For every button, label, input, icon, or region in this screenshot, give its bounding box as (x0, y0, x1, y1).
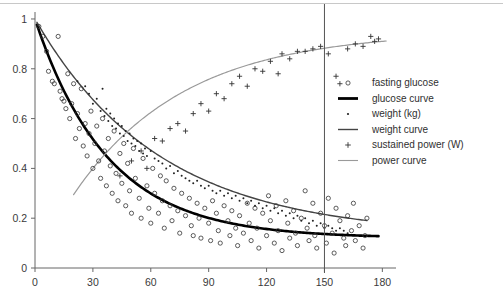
data-point (89, 109, 93, 113)
x-tick-label: 90 (203, 276, 215, 288)
data-point (147, 206, 151, 210)
data-point (73, 136, 77, 140)
data-point (127, 140, 129, 142)
data-point (113, 118, 115, 120)
data-point (109, 113, 111, 115)
data-point (228, 234, 232, 238)
data-point (312, 220, 314, 222)
data-point (207, 221, 211, 225)
data-point (199, 236, 203, 240)
data-point (222, 96, 227, 101)
data-point (320, 222, 322, 224)
data-point (158, 160, 160, 162)
data-point (145, 184, 149, 188)
legend-item: power curve (338, 155, 427, 166)
data-point (249, 239, 253, 243)
data-point (281, 210, 283, 212)
y-tick-label: 0 (21, 262, 27, 274)
data-point (212, 190, 214, 192)
data-point (120, 181, 124, 185)
data-point (335, 230, 337, 232)
data-point (180, 191, 184, 195)
data-point (346, 214, 350, 218)
data-point (252, 66, 257, 71)
curves-layer (37, 22, 386, 236)
data-point (285, 215, 287, 217)
data-point (100, 110, 102, 112)
data-point (357, 224, 361, 228)
data-point (253, 206, 257, 210)
data-point (181, 175, 183, 177)
x-tick-label: 30 (87, 276, 99, 288)
legend-label: fasting glucose (372, 77, 439, 88)
data-points-layer (37, 24, 381, 255)
data-point (334, 206, 338, 210)
data-point (106, 136, 110, 140)
data-point (258, 202, 260, 204)
data-point (223, 195, 225, 197)
data-point (84, 85, 86, 87)
data-point (141, 156, 145, 160)
series-sustained-power-w- (117, 34, 381, 179)
data-point (219, 190, 221, 192)
legend-item: glucose curve (338, 93, 434, 104)
y-tick-label: 1 (21, 13, 27, 25)
data-point (311, 201, 315, 205)
x-tick-label: 120 (258, 276, 276, 288)
legend-label: weight curve (371, 124, 429, 135)
data-point (88, 93, 90, 95)
data-point (123, 135, 125, 137)
data-point (71, 82, 75, 86)
data-point (230, 209, 234, 213)
data-point (247, 221, 251, 225)
data-point (210, 199, 214, 203)
data-point (239, 200, 241, 202)
data-point (227, 192, 229, 194)
data-point (266, 194, 270, 198)
data-point (288, 236, 292, 240)
data-point (100, 116, 104, 120)
data-point (284, 199, 288, 203)
series-fasting-glucose (37, 24, 369, 255)
data-point (237, 74, 242, 79)
data-point (95, 124, 99, 128)
data-point (149, 221, 153, 225)
x-tick-label: 0 (32, 276, 38, 288)
data-point (68, 116, 72, 120)
data-point (46, 69, 50, 73)
data-point (327, 225, 329, 227)
data-point (349, 229, 353, 233)
data-point (121, 125, 123, 127)
data-point (103, 115, 105, 117)
data-point (304, 217, 306, 219)
data-point (122, 141, 126, 145)
data-point (333, 74, 338, 79)
y-tick-label: 0.8 (12, 63, 27, 75)
data-point (131, 146, 135, 150)
data-point (277, 212, 279, 214)
data-point (167, 126, 172, 131)
data-point (365, 216, 369, 220)
y-tick-label: 0.2 (12, 212, 27, 224)
x-tick-label: 150 (316, 276, 334, 288)
curve-glucose-curve (37, 25, 379, 236)
data-point (81, 144, 85, 148)
data-point (261, 211, 265, 215)
data-point (368, 34, 373, 39)
data-point (130, 142, 132, 144)
data-point (272, 241, 276, 245)
data-point (337, 81, 342, 86)
legend-item: weight curve (338, 124, 429, 135)
data-point (187, 196, 191, 200)
data-point (134, 145, 136, 147)
data-point (332, 251, 336, 255)
data-point (198, 101, 203, 106)
data-point (151, 166, 155, 170)
data-point (338, 219, 342, 223)
data-point (144, 166, 149, 171)
data-point (175, 121, 180, 126)
data-point (183, 214, 187, 218)
data-point (111, 125, 113, 127)
data-point (237, 214, 241, 218)
data-point (215, 192, 217, 194)
